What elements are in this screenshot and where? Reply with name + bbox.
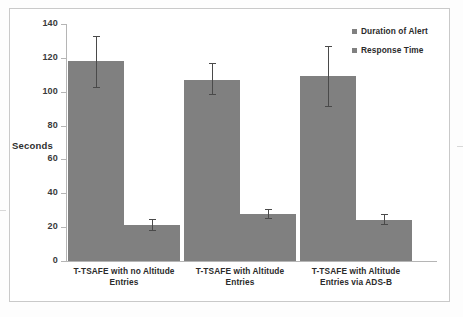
error-bar — [146, 219, 158, 231]
y-tick-mark — [61, 58, 66, 59]
bar-response-time — [356, 220, 412, 261]
legend-swatch-icon — [352, 48, 357, 53]
category-label-line: T-TSAFE with Altitude — [174, 266, 306, 277]
legend-item: Duration of Alert — [352, 26, 452, 36]
category-label: T-TSAFE with AltitudeEntries via ADS-B — [290, 266, 422, 288]
y-tick-mark — [61, 126, 66, 127]
y-tick-label-wrap: 40 — [26, 188, 58, 198]
y-tick-label-wrap: 0 — [26, 256, 58, 266]
y-tick-label-wrap: 60 — [26, 154, 58, 164]
y-tick-label-wrap: 80 — [26, 121, 58, 131]
error-bar-cap-bottom — [381, 224, 388, 225]
y-tick-mark — [61, 159, 66, 160]
y-tick-label-wrap: 140 — [26, 19, 58, 29]
y-tick-label: 40 — [30, 188, 58, 197]
y-tick-label: 0 — [30, 256, 58, 265]
error-bar-cap-bottom — [209, 94, 216, 95]
y-tick-mark — [61, 261, 66, 262]
error-bar-cap-bottom — [93, 87, 100, 88]
y-tick-label: 80 — [30, 121, 58, 130]
error-bar-cap-bottom — [149, 230, 156, 231]
legend-item: Response Time — [352, 45, 452, 55]
category-label: T-TSAFE with AltitudeEntries — [174, 266, 306, 288]
y-tick-mark — [61, 24, 66, 25]
legend-label: Duration of Alert — [361, 26, 428, 36]
error-bar — [322, 46, 334, 107]
scan-artifact-left — [0, 210, 6, 211]
chart-figure: Seconds 140120100806040200 T-TSAFE with … — [0, 0, 463, 317]
category-label-line: Entries via ADS-B — [290, 277, 422, 288]
y-tick-label: 20 — [30, 222, 58, 231]
y-tick-label-wrap: 20 — [26, 222, 58, 232]
bar-duration-of-alert — [68, 61, 124, 261]
category-label-line: Entries — [58, 277, 190, 288]
y-tick-mark — [61, 92, 66, 93]
bar-response-time — [240, 214, 296, 261]
category-label-line: Entries — [174, 277, 306, 288]
y-tick-label-wrap: 100 — [26, 87, 58, 97]
error-bar — [90, 36, 102, 88]
error-bar — [262, 209, 274, 219]
error-bar-cap-bottom — [325, 106, 332, 107]
chart-legend: Duration of AlertResponse Time — [352, 26, 452, 64]
error-bar — [206, 63, 218, 95]
scan-artifact-right — [457, 146, 463, 147]
y-axis-line — [66, 24, 67, 262]
y-tick-label-wrap: 120 — [26, 53, 58, 63]
error-bar-stem — [212, 63, 213, 95]
y-tick-label: 100 — [30, 87, 58, 96]
error-bar-cap-bottom — [265, 218, 272, 219]
y-tick-label: 120 — [30, 53, 58, 62]
legend-swatch-icon — [352, 29, 357, 34]
y-tick-mark — [61, 227, 66, 228]
y-tick-label: 60 — [30, 154, 58, 163]
bar-duration-of-alert — [184, 80, 240, 261]
y-tick-label: 140 — [30, 19, 58, 28]
category-label: T-TSAFE with no AltitudeEntries — [58, 266, 190, 288]
y-axis-title: Seconds — [12, 140, 53, 151]
error-bar-stem — [328, 46, 329, 107]
x-axis-line — [66, 261, 437, 262]
error-bar — [378, 214, 390, 226]
category-label-line: T-TSAFE with no Altitude — [58, 266, 190, 277]
category-label-line: T-TSAFE with Altitude — [290, 266, 422, 277]
bar-response-time — [124, 225, 180, 261]
y-tick-mark — [61, 193, 66, 194]
error-bar-stem — [96, 36, 97, 88]
legend-label: Response Time — [361, 45, 423, 55]
